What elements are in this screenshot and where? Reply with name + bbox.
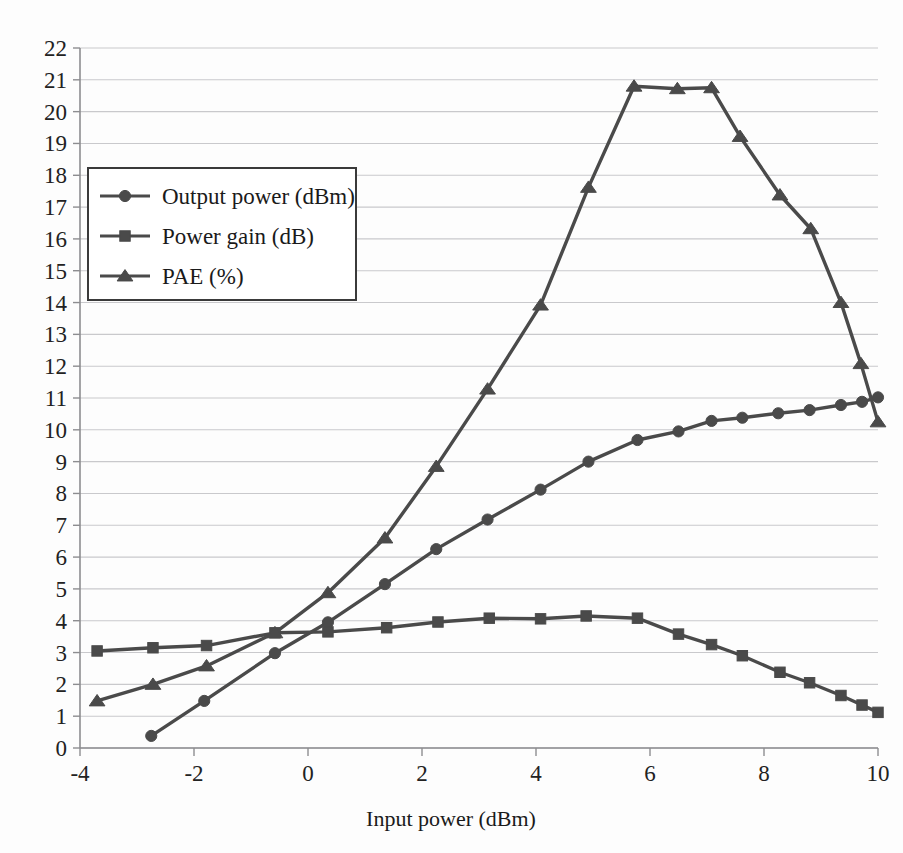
data-point-1-16 bbox=[836, 690, 846, 700]
data-point-1-5 bbox=[381, 623, 391, 633]
data-point-1-15 bbox=[804, 678, 814, 688]
y-tick-label-21: 21 bbox=[44, 68, 67, 93]
y-tick-label-16: 16 bbox=[44, 227, 67, 252]
y-tick-label-0: 0 bbox=[56, 736, 68, 761]
data-point-1-17 bbox=[857, 700, 867, 710]
data-point-1-8 bbox=[535, 614, 545, 624]
y-tick-label-11: 11 bbox=[45, 386, 67, 411]
y-tick-label-19: 19 bbox=[44, 131, 67, 156]
y-tick-label-14: 14 bbox=[44, 291, 68, 316]
data-point-0-14 bbox=[804, 405, 815, 416]
data-point-0-7 bbox=[535, 484, 546, 495]
data-point-2-8 bbox=[533, 299, 549, 310]
data-point-2-17 bbox=[853, 357, 869, 368]
data-point-0-1 bbox=[199, 695, 210, 706]
y-tick-label-20: 20 bbox=[44, 100, 67, 125]
data-point-2-14 bbox=[772, 189, 788, 200]
data-point-1-12 bbox=[706, 639, 716, 649]
y-tick-label-6: 6 bbox=[56, 545, 68, 570]
chart-legend: Output power (dBm)Power gain (dB)PAE (%) bbox=[88, 168, 356, 300]
data-point-0-11 bbox=[706, 415, 717, 426]
data-point-0-9 bbox=[632, 434, 643, 445]
data-point-2-5 bbox=[377, 532, 393, 543]
x-axis-title: Input power (dBm) bbox=[366, 806, 536, 831]
data-point-1-4 bbox=[323, 627, 333, 637]
y-tick-label-9: 9 bbox=[56, 450, 68, 475]
y-tick-label-8: 8 bbox=[56, 481, 68, 506]
data-point-1-6 bbox=[433, 617, 443, 627]
data-point-0-2 bbox=[269, 648, 280, 659]
legend-label-2: PAE (%) bbox=[162, 264, 244, 289]
line-chart: 012345678910111213141516171819202122 -4-… bbox=[0, 0, 903, 853]
data-point-1-7 bbox=[484, 613, 494, 623]
x-axis-ticks: -4-20246810 bbox=[70, 748, 889, 786]
y-tick-label-10: 10 bbox=[44, 418, 67, 443]
data-point-1-2 bbox=[201, 640, 211, 650]
data-point-2-9 bbox=[581, 181, 597, 192]
legend-marker-circle-icon bbox=[119, 190, 130, 201]
legend-label-1: Power gain (dB) bbox=[162, 224, 314, 249]
data-point-1-14 bbox=[775, 667, 785, 677]
data-point-1-18 bbox=[873, 707, 883, 717]
y-axis-ticks: 012345678910111213141516171819202122 bbox=[44, 36, 80, 761]
legend-marker-square-icon bbox=[120, 231, 130, 241]
y-tick-label-17: 17 bbox=[44, 195, 67, 220]
y-tick-label-3: 3 bbox=[56, 641, 68, 666]
data-point-2-7 bbox=[480, 383, 496, 394]
data-point-1-13 bbox=[737, 651, 747, 661]
x-tick-label--2: -2 bbox=[184, 761, 203, 786]
x-tick-label-4: 4 bbox=[530, 761, 542, 786]
data-point-0-0 bbox=[146, 730, 157, 741]
y-tick-label-2: 2 bbox=[56, 672, 68, 697]
x-tick-label-0: 0 bbox=[302, 761, 314, 786]
y-tick-label-22: 22 bbox=[44, 36, 67, 61]
data-point-0-8 bbox=[583, 456, 594, 467]
x-tick-label--4: -4 bbox=[70, 761, 90, 786]
data-point-0-12 bbox=[737, 412, 748, 423]
x-tick-label-8: 8 bbox=[758, 761, 770, 786]
series-line-0 bbox=[151, 397, 878, 736]
y-tick-label-7: 7 bbox=[56, 513, 68, 538]
data-point-0-15 bbox=[835, 399, 846, 410]
x-tick-label-10: 10 bbox=[867, 761, 890, 786]
data-point-1-1 bbox=[148, 643, 158, 653]
grid-lines bbox=[80, 48, 878, 748]
data-point-0-10 bbox=[673, 426, 684, 437]
y-tick-label-13: 13 bbox=[44, 322, 67, 347]
y-tick-label-18: 18 bbox=[44, 163, 67, 188]
series-circle bbox=[146, 392, 884, 742]
data-point-0-4 bbox=[379, 579, 390, 590]
y-tick-label-1: 1 bbox=[56, 704, 68, 729]
data-point-0-13 bbox=[773, 408, 784, 419]
data-point-0-16 bbox=[856, 396, 867, 407]
data-point-0-5 bbox=[431, 544, 442, 555]
data-point-0-6 bbox=[482, 514, 493, 525]
y-tick-label-15: 15 bbox=[44, 259, 67, 284]
series-line-1 bbox=[97, 616, 878, 712]
data-point-2-18 bbox=[870, 415, 886, 426]
y-tick-label-12: 12 bbox=[44, 354, 67, 379]
data-point-1-0 bbox=[92, 646, 102, 656]
data-point-2-16 bbox=[833, 296, 849, 307]
data-point-2-2 bbox=[199, 659, 215, 670]
x-tick-label-6: 6 bbox=[644, 761, 656, 786]
figure-container: 012345678910111213141516171819202122 -4-… bbox=[0, 0, 903, 853]
data-point-1-9 bbox=[581, 611, 591, 621]
y-tick-label-4: 4 bbox=[56, 609, 68, 634]
data-point-0-17 bbox=[872, 392, 883, 403]
data-point-1-11 bbox=[673, 629, 683, 639]
y-tick-label-5: 5 bbox=[56, 577, 68, 602]
x-tick-label-2: 2 bbox=[416, 761, 428, 786]
legend-label-0: Output power (dBm) bbox=[162, 184, 355, 209]
data-point-1-10 bbox=[632, 613, 642, 623]
data-point-2-13 bbox=[732, 130, 748, 141]
